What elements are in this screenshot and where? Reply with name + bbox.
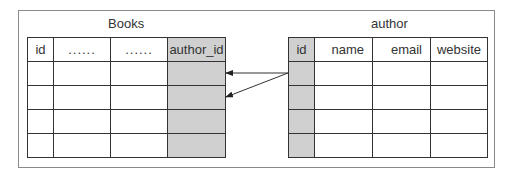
relation-arrow-2 [226,73,288,97]
relation-arrows [0,0,510,173]
